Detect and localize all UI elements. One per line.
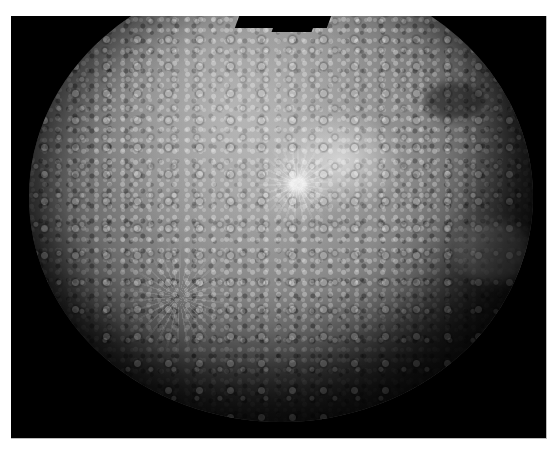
page bbox=[0, 0, 558, 450]
image-frame bbox=[11, 16, 547, 439]
planet bbox=[29, 16, 533, 422]
mosaic-gap-notch bbox=[272, 24, 315, 32]
